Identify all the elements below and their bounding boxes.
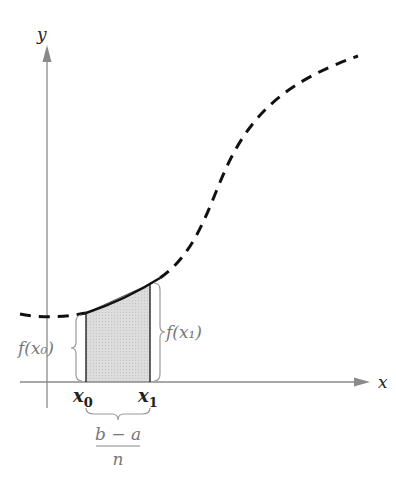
x1-label: x1: [137, 385, 158, 410]
width-brace: [86, 408, 150, 420]
width-numerator: b − a: [95, 424, 141, 444]
f-x0-label: f(x₀): [16, 338, 54, 358]
riemann-diagram: y x x0 x1 f(x₀) f(x₁) b − a n: [0, 0, 396, 484]
width-denominator: n: [113, 449, 124, 469]
f-x1-label: f(x₁): [164, 322, 202, 342]
function-curve-dashed-left: [20, 313, 86, 317]
y-axis-label: y: [36, 24, 47, 44]
left-height-brace: [71, 315, 82, 381]
x0-label: x0: [72, 385, 93, 410]
function-curve-dashed-right: [160, 56, 358, 278]
x-axis-label: x: [378, 372, 388, 392]
right-height-brace: [154, 283, 165, 381]
y-axis-arrow-icon: [43, 45, 52, 62]
x-axis-arrow-icon: [354, 378, 370, 387]
